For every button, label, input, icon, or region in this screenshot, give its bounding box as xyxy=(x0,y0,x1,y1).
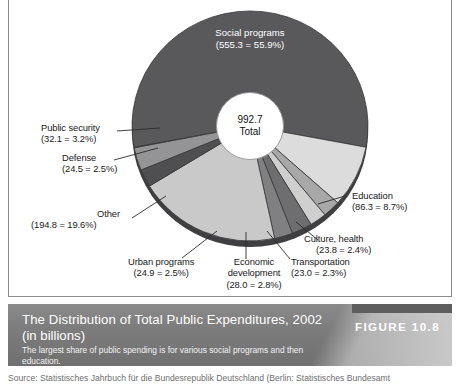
figure-caption-band: The Distribution of Total Public Expendi… xyxy=(8,304,452,366)
label-public-security-value: (32.1 = 3.2%) xyxy=(41,133,100,144)
label-economic-development-value: (28.0 = 2.8%) xyxy=(218,279,290,290)
label-transportation: Transportation (23.0 = 2.3%) xyxy=(291,256,350,279)
label-transportation-value: (23.0 = 2.3%) xyxy=(291,267,350,278)
label-urban-programs-name: Urban programs xyxy=(128,256,194,267)
label-education-value: (86.3 = 8.7%) xyxy=(352,201,407,212)
label-other-value: (194.8 = 19.6%) xyxy=(31,219,120,230)
figure-number-tab xyxy=(352,304,452,313)
label-public-security: Public security (32.1 = 3.2%) xyxy=(41,122,100,145)
label-education: Education (86.3 = 8.7%) xyxy=(352,190,407,213)
pie-chart-svg: 992.7 Total Social programs (555.3 = 55.… xyxy=(131,8,369,248)
label-urban-programs-value: (24.9 = 2.5%) xyxy=(128,267,194,278)
label-education-name: Education xyxy=(352,190,393,201)
label-culture-health-value: (23.8 = 2.4%) xyxy=(316,244,371,255)
pie-chart: 992.7 Total Social programs (555.3 = 55.… xyxy=(131,8,369,248)
label-culture-health: Culture, health (23.8 = 2.4%) xyxy=(304,233,371,256)
figure-source-line: Source: Statistisches Jahrbuch für die B… xyxy=(8,373,452,383)
label-other: Other (194.8 = 19.6%) xyxy=(31,208,120,231)
label-defense-name: Defense xyxy=(62,152,96,163)
slice-sublabel-social-programs: (555.3 = 55.9%) xyxy=(216,39,285,50)
slice-label-social-programs: Social programs xyxy=(215,27,285,38)
center-total-value: 992.7 xyxy=(237,114,262,125)
label-public-security-name: Public security xyxy=(41,122,100,133)
label-economic-development: Economic development (28.0 = 2.8%) xyxy=(218,256,290,290)
label-transportation-name: Transportation xyxy=(291,256,350,267)
figure-number-label: FIGURE 10.8 xyxy=(355,320,440,333)
label-defense: Defense (24.5 = 2.5%) xyxy=(62,152,117,175)
center-total-caption: Total xyxy=(239,126,260,137)
label-culture-health-name: Culture, health xyxy=(304,233,363,244)
figure-subtitle: The largest share of public spending is … xyxy=(22,345,322,366)
label-economic-development-name: Economic xyxy=(234,256,274,267)
label-defense-value: (24.5 = 2.5%) xyxy=(62,163,117,174)
figure-title-line1: The Distribution of Total Public Expendi… xyxy=(22,312,322,327)
label-urban-programs: Urban programs (24.9 = 2.5%) xyxy=(128,256,194,279)
figure-title-line2: (in billions) xyxy=(22,328,85,343)
label-economic-development-name2: development xyxy=(218,267,290,278)
label-other-name: Other xyxy=(97,208,120,219)
